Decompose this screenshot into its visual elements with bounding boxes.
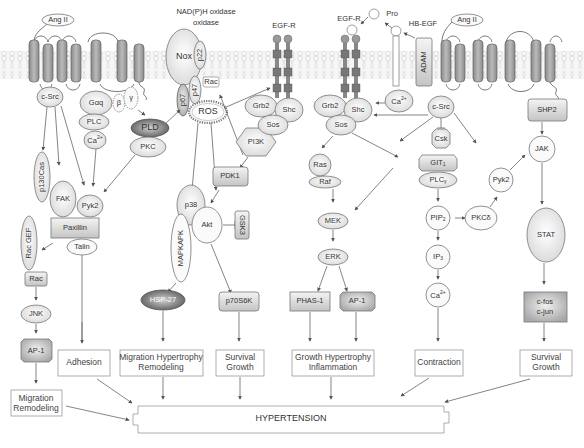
rac-gef-label: Rac GEF [24, 227, 33, 258]
hsp27-label: HSP-27 [150, 295, 176, 304]
shc-1-label: Shc [283, 105, 296, 114]
jak-label: JAK [535, 144, 549, 153]
nox-label: Nox [176, 51, 193, 61]
p22-label: p22 [195, 49, 204, 62]
mapkapk-label: MAPKAPK [176, 230, 185, 266]
csk-label: Csk [435, 134, 448, 143]
pro-ligand [369, 9, 379, 19]
c-src-right-label: c-Src [432, 102, 450, 111]
p38-label: p38 [185, 200, 198, 209]
erk-label: ERK [325, 252, 340, 261]
outcome-migration-hypertrophy-line2: Remodeling [138, 362, 184, 372]
pdk1-label: PDK1 [220, 171, 240, 180]
hypertension-label: HYPERTENSION [256, 413, 327, 423]
pyk2-right-label: Pyk2 [493, 175, 510, 184]
grb2-2-label: Grb2 [322, 101, 339, 110]
oxidase-label: oxidase [193, 18, 219, 27]
gamma-label: γ [129, 93, 133, 102]
pkc-delta-label: PKCδ [471, 213, 491, 222]
gsk3-label: GSK3 [238, 215, 247, 235]
mek-label: MEK [325, 216, 341, 225]
p67-label: p67 [178, 94, 187, 107]
egfr2-label: EGF-R [337, 14, 361, 23]
pro-label: Pro [386, 9, 398, 18]
shp2-label: SHP2 [537, 105, 557, 114]
stat-label: STAT [537, 230, 555, 239]
rac-left-label: Rac [29, 274, 43, 283]
hb-egf-label: HB-EGF [409, 19, 438, 28]
outcome-migration-hypertrophy-line1: Migration Hypertrophy [119, 352, 203, 362]
outcome-contraction-label: Contraction [417, 357, 461, 367]
egfr1-label: EGF-R [272, 21, 296, 30]
ras-label: Ras [313, 160, 327, 169]
pro-hb-egf-stalk [393, 36, 399, 86]
p47-label: p47 [190, 84, 199, 97]
outcome-survival-growth-1-line2: Growth [226, 362, 254, 372]
plc-label: PLC [87, 117, 102, 126]
p130cas-label: p130Cas [37, 162, 46, 192]
g-alpha-q-label: Gαq [89, 98, 103, 107]
pld-label: PLD [141, 122, 159, 132]
nadph-oxidase-label: NAD(P)H oxidase [176, 7, 235, 16]
outcome-migration-remodeling-line2: Remodeling [13, 403, 59, 413]
shc-2-label: Shc [352, 105, 365, 114]
sos-1-label: Sos [267, 120, 280, 129]
p70s6k-label: p70S6K [226, 296, 253, 305]
ang2-left-label: Ang II [48, 15, 68, 24]
ros-label: ROS [198, 106, 218, 116]
ang2-right-label: Ang II [457, 15, 477, 24]
talin-label: Talin [74, 242, 89, 251]
sos-2-label: Sos [335, 120, 348, 129]
paxillin-label: Paxillin [63, 223, 87, 232]
c-jun-label: c-jun [537, 307, 553, 316]
hb-egf-ligand-bound [347, 25, 357, 35]
outcome-survival-growth-1-line1: Survival [225, 352, 255, 362]
signaling-diagram: Ang II NAD(P)H oxidase oxidase Nox p22 p… [0, 0, 584, 448]
outcome-growth-hypertrophy-line2: Inflammation [309, 362, 358, 372]
ap1-left-label: AP-1 [28, 346, 45, 355]
outcome-survival-growth-2-line1: Survival [531, 352, 561, 362]
c-src-left-label: c-Src [41, 92, 59, 101]
akt-label: Akt [202, 220, 214, 229]
fak-label: FAK [56, 194, 70, 203]
outcome-survival-growth-2-line2: Growth [532, 362, 560, 372]
rac-top-label: Rac [204, 77, 218, 86]
outcome-migration-remodeling-line1: Migration [19, 393, 54, 403]
jnk-label: JNK [29, 309, 43, 318]
adam-label: ADAM [419, 51, 428, 73]
phas1-label: PHAS-1 [296, 296, 323, 305]
pro-hb-egf-head [391, 26, 401, 36]
outcome-adhesion-label: Adhesion [66, 357, 102, 367]
pyk2-left-label: Pyk2 [82, 201, 99, 210]
pi3k-label: PI3K [248, 137, 264, 146]
ap1-right-label: AP-1 [349, 296, 366, 305]
grb2-1-label: Grb2 [253, 101, 270, 110]
c-fos-label: c-fos [537, 297, 554, 306]
pkc-label: PKC [140, 142, 156, 151]
beta-label: β [117, 98, 122, 107]
outcome-growth-hypertrophy-line1: Growth Hypertrophy [295, 352, 372, 362]
raf-label: Raf [319, 177, 332, 186]
